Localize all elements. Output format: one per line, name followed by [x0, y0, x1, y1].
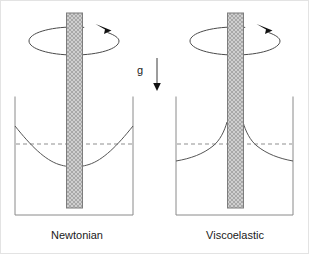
free-surface-curve-viscoelastic-left [176, 122, 227, 161]
figure-container: g Newtonian [0, 0, 309, 254]
rotation-arrow-head-viscoelastic [257, 24, 273, 34]
rotation-arrow-head-newtonian [96, 24, 112, 34]
rod-climbing-diagram: g Newtonian [1, 1, 308, 253]
rod-viscoelastic [228, 13, 244, 208]
panel-label-viscoelastic: Viscoelastic [206, 229, 264, 241]
gravity-arrow-head [153, 83, 161, 91]
free-surface-curve-viscoelastic-right [243, 122, 293, 161]
rotating-rod-viscoelastic [228, 13, 244, 208]
gravity-label: g [137, 64, 143, 76]
gravity-indicator: g [137, 58, 161, 91]
panel-label-newtonian: Newtonian [51, 229, 103, 241]
panel-newtonian: Newtonian [15, 13, 133, 241]
rod-newtonian [67, 13, 83, 208]
rotating-rod-newtonian [67, 13, 83, 208]
panel-viscoelastic: Viscoelastic [176, 13, 293, 241]
